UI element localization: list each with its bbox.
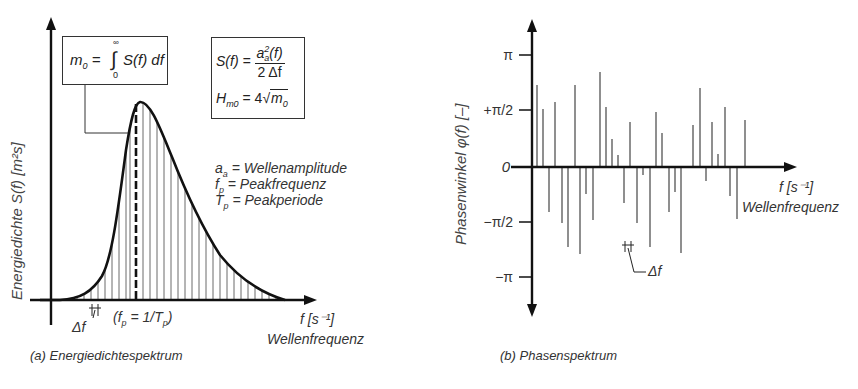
y-axis-label-b: Phasenwinkel φ(f) [–]: [452, 103, 469, 245]
x-axis-unit-b: f [s⁻¹]: [779, 180, 813, 194]
formula-box-m0: m0 = ∞ ∫ 0 S(f) df: [62, 36, 168, 85]
x-axis-label-a: Wellenfrequenz: [267, 332, 364, 346]
delta-f-label-a: Δf: [72, 320, 85, 334]
m0-leader-line: [85, 84, 128, 133]
y-tick-zero: 0: [470, 159, 510, 174]
y-tick-pi: π: [473, 48, 513, 62]
delta-f-marker-a: [89, 304, 101, 318]
sqrt-icon: √: [262, 90, 270, 106]
y-tick-minus-half-pi: −π/2: [473, 215, 513, 229]
y-axis-label-a: Energiedichte S(f) [m²s]: [8, 142, 25, 300]
formula-box-s-h: S(f) = a2a(f) 2 Δf Hm0 = 4√m0: [211, 37, 305, 119]
x-axis-arrow-a: [304, 295, 317, 305]
integral-sign: ∫: [111, 48, 116, 71]
y-axis-arrow-a: [46, 17, 56, 30]
delta-f-marker-b: [622, 241, 646, 272]
phase-stems: [537, 72, 745, 254]
legend-item: Tp = Peakperiode: [215, 193, 323, 211]
y-tick-minus-pi: −π: [473, 270, 513, 284]
fraction: a2a(f) 2 Δf: [255, 44, 285, 80]
delta-f-label-b: Δf: [648, 264, 661, 278]
y-axis-arrow-b-bottom: [527, 304, 537, 317]
caption-b: (b) Phasenspektrum: [500, 348, 617, 363]
peak-frequency-label: (fp = 1/Tp): [113, 310, 172, 328]
y-tick-half-pi: +π/2: [473, 103, 513, 117]
caption-a: (a) Energiedichtespektrum: [30, 348, 182, 363]
y-axis-arrow-b-top: [527, 19, 537, 32]
x-axis-label-b: Wellenfrequenz: [742, 200, 839, 214]
x-axis-arrow-b: [784, 162, 797, 172]
x-axis-unit-a: f [s⁻¹]: [300, 312, 334, 326]
